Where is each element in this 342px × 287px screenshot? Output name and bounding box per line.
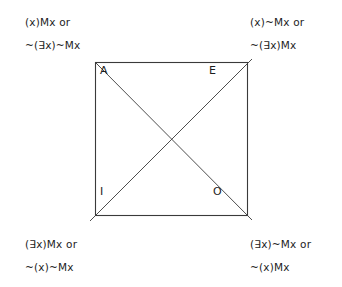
formula-e-line-1: (x)~Mx or xyxy=(250,11,304,34)
formula-a-line-2: ~(∃x)~Mx xyxy=(25,34,81,57)
formula-block-a: (x)Mx or ~(∃x)~Mx xyxy=(25,11,81,57)
formula-o-line-1: (∃x)~Mx or xyxy=(250,233,311,256)
corner-letter-i: I xyxy=(100,186,103,197)
formula-a-line-1: (x)Mx or xyxy=(25,11,81,34)
diagonal-i-to-e xyxy=(90,59,252,221)
formula-block-o: (∃x)~Mx or ~(x)Mx xyxy=(250,233,311,279)
formula-i-line-1: (∃x)Mx or xyxy=(25,233,77,256)
square-of-opposition-figure: A E I O (x)Mx or ~(∃x)~Mx (x)~Mx or ~(∃x… xyxy=(0,0,342,287)
formula-e-line-2: ~(∃x)Mx xyxy=(250,34,304,57)
formula-block-i: (∃x)Mx or ~(x)~Mx xyxy=(25,233,77,279)
formula-o-line-2: ~(x)Mx xyxy=(250,256,311,279)
formula-i-line-2: ~(x)~Mx xyxy=(25,256,77,279)
corner-letter-a: A xyxy=(100,65,108,76)
corner-letter-o: O xyxy=(213,186,222,197)
formula-block-e: (x)~Mx or ~(∃x)Mx xyxy=(250,11,304,57)
corner-letter-e: E xyxy=(209,65,216,76)
diagonal-a-to-o xyxy=(95,62,252,220)
